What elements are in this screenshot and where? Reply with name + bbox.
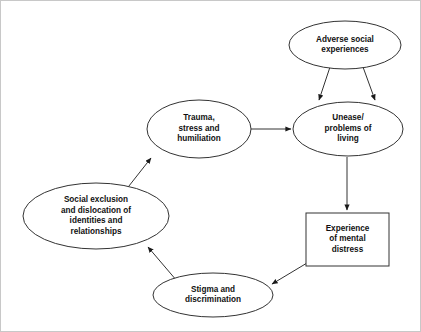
node-adverse-social-experiences[interactable] [289,21,401,69]
node-trauma-stress-humiliation[interactable] [147,100,251,158]
edge-adverse-to-unease-left [319,67,330,100]
node-experience-of-mental-distress[interactable] [306,213,389,266]
edge-stigma-to-social-exclusion [148,247,177,281]
edge-adverse-to-unease-right [363,67,375,100]
node-unease-problems-of-living[interactable] [293,102,403,156]
node-stigma-and-discrimination[interactable] [153,273,273,317]
node-social-exclusion-dislocation[interactable] [23,183,169,249]
diagram-canvas: Adverse social experiencesUnease/ proble… [0,0,421,332]
edge-distress-to-stigma [272,263,307,284]
diagram-svg [1,1,421,332]
nodes-layer [23,21,403,317]
